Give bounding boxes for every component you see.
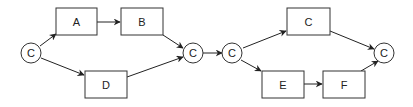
node-e: E	[262, 71, 304, 98]
node-f: F	[323, 71, 365, 98]
node-label: F	[341, 79, 348, 91]
node-c5: C	[374, 43, 394, 63]
edge-c4-c5	[330, 31, 374, 49]
node-c3: C	[222, 43, 242, 63]
node-label: C	[27, 47, 35, 59]
node-c4: C	[287, 8, 330, 35]
node-label: C	[305, 16, 313, 28]
node-label: C	[189, 47, 197, 59]
node-label: C	[380, 47, 388, 59]
node-b: B	[121, 8, 163, 35]
flow-diagram: C A B D C C C E F C	[0, 0, 413, 107]
node-c2: C	[183, 43, 203, 63]
node-label: D	[102, 79, 110, 91]
edge-f-c5	[361, 61, 378, 71]
edge-c1-a	[40, 34, 56, 46]
edge-c3-e	[241, 60, 261, 71]
node-label: B	[138, 16, 145, 28]
node-a: A	[56, 8, 97, 35]
node-label: C	[228, 47, 236, 59]
edge-b-c2	[163, 35, 183, 48]
node-c1: C	[21, 43, 41, 63]
node-d: D	[85, 71, 127, 98]
node-label: A	[73, 16, 81, 28]
node-label: E	[279, 79, 286, 91]
edge-c1-d	[41, 58, 84, 75]
edge-c3-c4	[243, 31, 286, 48]
edge-d-c2	[127, 57, 183, 77]
